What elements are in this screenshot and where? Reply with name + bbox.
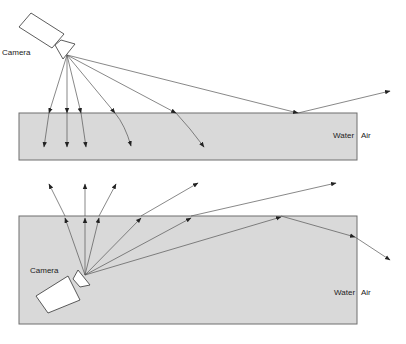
refraction-diagram: Camera Water Air Camera Water Air (0, 0, 406, 344)
air-label-bottom: Air (361, 288, 371, 297)
camera-label-top: Camera (2, 48, 30, 57)
water-label-bottom: Water (334, 288, 355, 297)
water-label-top: Water (333, 131, 354, 140)
camera-label-bottom: Camera (30, 266, 58, 275)
air-label-top: Air (361, 131, 371, 140)
water-region-top (19, 113, 357, 160)
